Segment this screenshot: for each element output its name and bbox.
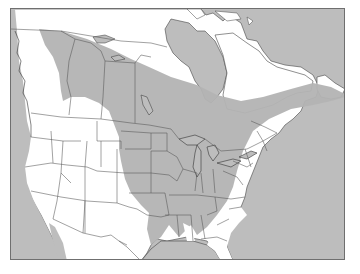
range-map <box>11 9 345 260</box>
map-frame <box>10 8 345 260</box>
